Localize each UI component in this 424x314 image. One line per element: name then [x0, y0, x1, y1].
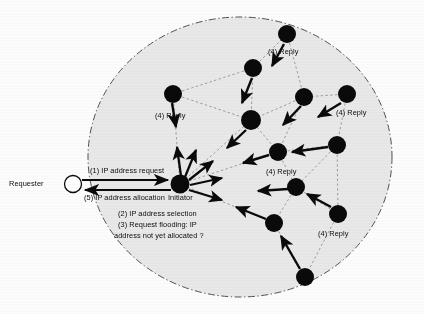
node-lower-mid[interactable]: [287, 178, 305, 196]
figure-canvas: Requester Initiator (1) IP address reque…: [0, 0, 424, 314]
reply-label-top: (4) Reply: [268, 47, 298, 57]
reply-label-right: (4) Reply: [336, 108, 366, 118]
node-requester[interactable]: [65, 176, 82, 193]
node-mid[interactable]: [269, 143, 287, 161]
requester-label: Requester: [9, 179, 44, 189]
step1-label: (1) IP address request: [90, 166, 164, 176]
node-center[interactable]: [241, 110, 261, 130]
step5-label: (5) IP address allocation: [84, 193, 165, 203]
reply-label-left: (4) Reply: [155, 111, 185, 121]
reply-label-bottom-right: (4) Reply: [318, 229, 348, 239]
node-right-upper[interactable]: [295, 88, 313, 106]
node-far-right[interactable]: [338, 85, 356, 103]
cloud-boundary: [88, 17, 392, 297]
node-top[interactable]: [278, 25, 296, 43]
node-upper-mid[interactable]: [244, 59, 262, 77]
reply-label-middle: (4) Reply: [266, 167, 296, 177]
node-initiator[interactable]: [171, 175, 190, 194]
step3-label-line2: address not yet allocated ?: [114, 231, 204, 241]
node-mid-right[interactable]: [328, 136, 346, 154]
node-left[interactable]: [164, 85, 182, 103]
node-lower-right[interactable]: [329, 205, 347, 223]
node-lower-left[interactable]: [265, 214, 283, 232]
node-bottom[interactable]: [296, 268, 314, 286]
network-diagram: [0, 0, 424, 314]
step3-label-line1: (3) Request flooding: IP: [118, 220, 197, 230]
step2-label: (2) IP address selection: [118, 209, 197, 219]
initiator-label: Initiator: [168, 193, 193, 203]
network-cloud: [88, 17, 392, 297]
